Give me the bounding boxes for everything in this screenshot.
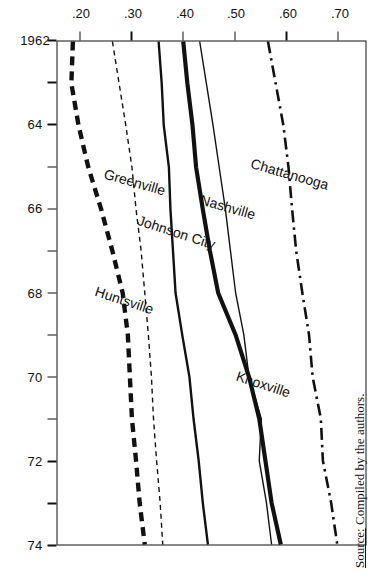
series-line-nashville xyxy=(199,41,271,544)
y-axis-tick-label: .70 xyxy=(321,6,357,21)
y-axis-tick xyxy=(337,31,338,40)
y-axis-tick xyxy=(130,31,131,40)
x-axis-tick xyxy=(47,81,56,82)
series-line-chattanooga xyxy=(267,41,336,544)
x-axis-tick xyxy=(47,166,56,167)
y-axis-tick-label: .60 xyxy=(269,6,305,21)
x-axis-tick xyxy=(47,502,56,503)
y-axis-tick xyxy=(79,31,80,40)
y-axis-tick-label: .40 xyxy=(166,6,202,21)
y-axis-tick xyxy=(285,31,286,40)
y-axis-tick xyxy=(182,31,183,40)
y-axis-tick xyxy=(234,31,235,40)
source-note: Source: Compiled by the authors. xyxy=(352,394,368,568)
x-axis-tick-label: 72 xyxy=(17,453,53,468)
x-axis-tick-label: 68 xyxy=(17,285,53,300)
series-line-knoxville xyxy=(183,41,281,544)
rotated-figure: Proportion 1962646668707274.70.60.50.40.… xyxy=(0,0,387,585)
x-axis-tick-label: 64 xyxy=(17,117,53,132)
x-axis-tick xyxy=(47,334,56,335)
x-axis-tick-label: 74 xyxy=(17,538,53,553)
x-axis-tick-label: 70 xyxy=(17,369,53,384)
source-label: Source: xyxy=(352,528,367,568)
y-axis-tick-label: .50 xyxy=(218,6,254,21)
source-text: Compiled by the authors. xyxy=(352,394,367,525)
figure-stage: Proportion 1962646668707274.70.60.50.40.… xyxy=(0,0,387,585)
y-axis-tick-label: .30 xyxy=(114,6,150,21)
y-axis-tick-label: .20 xyxy=(63,6,99,21)
series-line-johnson-city xyxy=(158,41,207,544)
x-axis-tick-label: 66 xyxy=(17,201,53,216)
x-axis-tick-label: 1962 xyxy=(17,33,53,48)
x-axis-tick xyxy=(47,250,56,251)
x-axis-tick xyxy=(47,418,56,419)
